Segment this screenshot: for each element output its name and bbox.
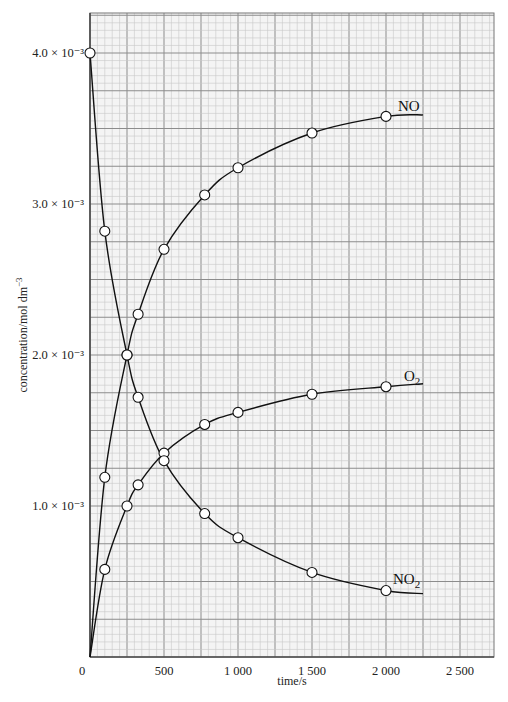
- data-marker-o2: [381, 382, 391, 392]
- data-marker-no: [381, 111, 391, 121]
- data-marker-no: [100, 472, 110, 482]
- x-axis-title: time/s: [277, 674, 307, 688]
- data-marker-no: [200, 190, 210, 200]
- data-marker-o2: [100, 564, 110, 574]
- svg-text:concentration/mol dm−3: concentration/mol dm−3: [14, 277, 30, 393]
- data-marker-o2: [307, 389, 317, 399]
- y-axis-title-main: concentration/mol dm: [16, 286, 30, 392]
- data-marker-no2: [159, 456, 169, 466]
- data-marker-no: [159, 244, 169, 254]
- y-axis-title-sup: −3: [14, 277, 24, 287]
- y-tick-label: 3.0 × 10⁻³: [32, 197, 84, 211]
- series-label-no: NO: [398, 98, 420, 114]
- y-tick-label: 1.0 × 10⁻³: [32, 499, 84, 513]
- x-tick-label: 2 500: [446, 664, 474, 678]
- x-tick-label: 500: [155, 664, 174, 678]
- plot-area: [90, 13, 494, 657]
- data-marker-no2: [233, 533, 243, 543]
- data-marker-no2: [200, 509, 210, 519]
- y-axis-title: concentration/mol dm−3: [14, 277, 30, 393]
- data-marker-no: [133, 309, 143, 319]
- data-marker-no2: [122, 350, 132, 360]
- data-marker-no: [307, 128, 317, 138]
- x-tick-label: 0: [79, 664, 85, 678]
- data-marker-no2: [85, 48, 95, 58]
- grid: [90, 13, 494, 657]
- x-tick-label: 1 000: [224, 664, 252, 678]
- data-marker-no2: [100, 226, 110, 236]
- data-marker-no2: [133, 392, 143, 402]
- data-marker-o2: [233, 407, 243, 417]
- y-tick-label: 2.0 × 10⁻³: [32, 348, 84, 362]
- data-marker-no2: [381, 586, 391, 596]
- data-marker-o2: [133, 480, 143, 490]
- x-tick-label: 2 000: [372, 664, 400, 678]
- data-marker-no2: [307, 567, 317, 577]
- y-tick-label: 4.0 × 10⁻³: [32, 46, 84, 60]
- data-marker-o2: [200, 419, 210, 429]
- chart-svg: 05001 0001 5002 0002 5001.0 × 10⁻³2.0 × …: [0, 0, 508, 702]
- data-marker-o2: [122, 501, 132, 511]
- data-marker-no: [233, 163, 243, 173]
